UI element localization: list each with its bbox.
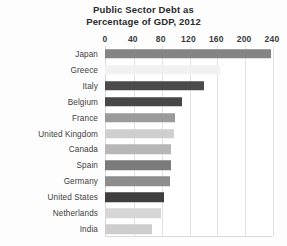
chart-title-line-1: Public Sector Debt as	[0, 4, 287, 16]
x-axis-tick-label: 120	[181, 34, 196, 44]
category-label: Germany	[64, 177, 98, 186]
bar	[105, 81, 204, 91]
category-label: Japan	[75, 49, 98, 58]
category-label: United Kingdom	[38, 129, 98, 138]
category-label: Spain	[77, 161, 98, 170]
bar	[105, 224, 152, 234]
category-label: Italy	[82, 81, 98, 90]
bar	[105, 177, 170, 187]
bar	[105, 208, 161, 218]
chart-row: Netherlands	[0, 205, 287, 221]
bar	[105, 49, 271, 59]
bar	[105, 145, 171, 155]
bar	[105, 65, 220, 75]
category-label: India	[80, 225, 98, 234]
category-label: Greece	[71, 65, 98, 74]
bar	[105, 129, 174, 139]
chart-row: Belgium	[0, 94, 287, 110]
category-label: Canada	[69, 145, 98, 154]
category-label: Belgium	[68, 97, 98, 106]
chart-row: Greece	[0, 62, 287, 78]
chart-row: Italy	[0, 78, 287, 94]
category-label: Netherlands	[53, 209, 98, 218]
chart-row: Spain	[0, 157, 287, 173]
chart-title: Public Sector Debt as Percentage of GDP,…	[0, 4, 287, 27]
category-label: United States	[48, 193, 98, 202]
bar	[105, 161, 171, 171]
x-axis-tick-label: 240	[265, 34, 280, 44]
chart-title-line-2: Percentage of GDP, 2012	[0, 16, 287, 28]
public-sector-debt-chart: Public Sector Debt as Percentage of GDP,…	[0, 0, 287, 246]
chart-row: India	[0, 221, 287, 237]
x-axis-tick-label: 80	[156, 34, 166, 44]
x-axis-tick-label: 40	[128, 34, 138, 44]
chart-row: United Kingdom	[0, 126, 287, 142]
chart-row: Canada	[0, 142, 287, 158]
bar	[105, 192, 164, 202]
chart-row: France	[0, 110, 287, 126]
x-axis-tick-label: 200	[237, 34, 252, 44]
chart-row: Germany	[0, 173, 287, 189]
category-label: France	[72, 113, 98, 122]
chart-row: United States	[0, 189, 287, 205]
chart-row: Japan	[0, 46, 287, 62]
x-axis-tick-label: 160	[209, 34, 224, 44]
bar	[105, 113, 175, 123]
bar	[105, 97, 182, 107]
x-axis-tick-labels: 04080120160200240	[0, 34, 287, 46]
x-axis-tick-label: 0	[103, 34, 108, 44]
chart-rows: JapanGreeceItalyBelgiumFranceUnited King…	[0, 46, 287, 237]
